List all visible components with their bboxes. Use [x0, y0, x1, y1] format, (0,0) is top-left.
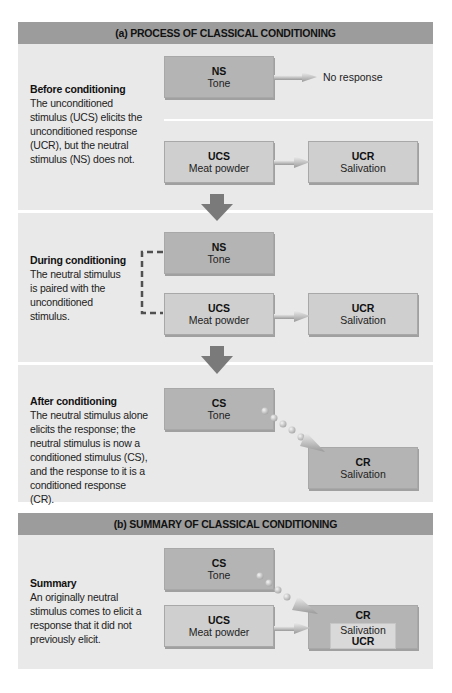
arrow-right-icon — [274, 156, 310, 168]
dotted-arrow-icon — [262, 408, 326, 453]
arrow-right-icon — [274, 72, 317, 82]
connector-layer — [0, 0, 452, 693]
arrow-right-icon — [274, 310, 310, 322]
dotted-arrow-icon — [257, 573, 319, 615]
down-arrow-icon — [201, 194, 233, 221]
down-arrow-icon — [201, 346, 233, 374]
pairing-bracket-icon — [142, 252, 163, 313]
arrow-right-icon — [274, 622, 310, 634]
